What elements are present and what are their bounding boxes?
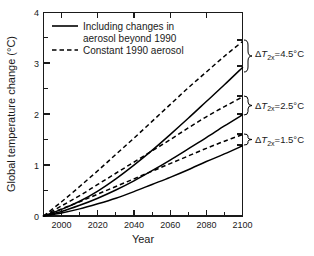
legend-label-solid-line1: Including changes in: [83, 21, 174, 32]
x-tick-labels: 2000 2020 2040 2060 2080 2100: [52, 220, 253, 230]
y-tick-label: 4: [34, 8, 39, 18]
top-axis-ticks: [62, 13, 207, 19]
x-axis-title: Year: [132, 233, 155, 245]
curve-4-5-solid: [44, 67, 243, 216]
y-tick-label: 0: [34, 212, 39, 222]
x-tick-label: 2100: [232, 220, 252, 230]
annotation-label-2-5: ΔT2x=2.5°C: [255, 100, 304, 113]
legend: Including changes in aerosol beyond 1990…: [52, 21, 184, 56]
brace-2-5: [244, 96, 252, 115]
curve-1-5-dashed: [44, 135, 243, 216]
figure-container: 0 1 2 3 4 2000 2020 2040 2060 2080 2100 …: [0, 0, 314, 256]
y-axis-title: Global temperature change (°C): [5, 36, 17, 192]
annotation-label-4-5: ΔT2x=4.5°C: [255, 48, 304, 61]
y-tick-label: 3: [34, 59, 39, 69]
y-tick-labels: 0 1 2 3 4: [34, 8, 39, 222]
x-tick-label: 2080: [196, 220, 216, 230]
y-tick-label: 2: [34, 110, 39, 120]
annotation-label-1-5: ΔT2x=1.5°C: [255, 134, 304, 147]
y-tick-label: 1: [34, 161, 39, 171]
brace-1-5: [244, 134, 252, 145]
x-tick-label: 2060: [160, 220, 180, 230]
temperature-projection-chart: 0 1 2 3 4 2000 2020 2040 2060 2080 2100 …: [0, 0, 314, 256]
brace-4-5: [244, 40, 252, 72]
curve-2-5-dashed: [44, 97, 243, 216]
curve-4-5-dashed: [44, 42, 243, 217]
x-tick-label: 2000: [52, 220, 72, 230]
right-axis-ticks: [237, 40, 243, 145]
x-tick-label: 2040: [124, 220, 144, 230]
data-curves-group: [44, 42, 243, 217]
sensitivity-annotations: ΔT2x=4.5°C ΔT2x=2.5°C ΔT2x=1.5°C: [244, 40, 304, 147]
legend-label-dashed: Constant 1990 aerosol: [83, 45, 184, 56]
legend-label-solid-line2: aerosol beyond 1990: [83, 33, 177, 44]
y-axis-ticks: [44, 13, 50, 217]
x-tick-label: 2020: [88, 220, 108, 230]
